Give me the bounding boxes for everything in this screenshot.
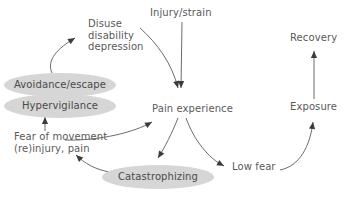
- node-hypervigilance: Hypervigilance: [4, 94, 116, 118]
- node-injury-strain: Injury/strain: [150, 7, 220, 19]
- node-fear-of-movement: Fear of movement (re)injury, pain: [14, 131, 114, 154]
- node-low-fear: Low fear: [232, 161, 282, 173]
- arrowhead-injury-to-pain: [178, 81, 184, 88]
- arrowhead-exposure-to-recovery: [311, 51, 317, 58]
- node-exposure: Exposure: [290, 101, 346, 113]
- node-catastrophizing: Catastrophizing: [102, 165, 214, 189]
- node-recovery: Recovery: [290, 32, 346, 44]
- arrowhead-fear-to-pain: [144, 119, 153, 128]
- arrowhead-fearmovement-to-hypervigilance: [42, 117, 48, 124]
- fear-avoidance-diagram: Disuse disability depression Injury/stra…: [0, 0, 350, 200]
- arrowhead-avoidance-to-disuse: [67, 35, 76, 44]
- arrowhead-pain-to-lowfear: [216, 160, 225, 169]
- node-disuse-disability-depression: Disuse disability depression: [88, 18, 150, 53]
- node-pain-experience: Pain experience: [152, 103, 242, 115]
- arrowhead-pain-to-catastrophizing: [155, 150, 164, 159]
- edge-injury-to-pain: [181, 22, 182, 88]
- edge-pain-to-lowfear: [186, 118, 224, 166]
- edge-lowfear-to-exposure: [280, 122, 313, 170]
